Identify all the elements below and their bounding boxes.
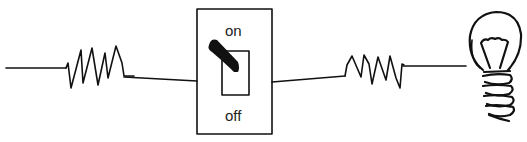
resistor-2-icon bbox=[345, 55, 404, 88]
wire-to-switch bbox=[124, 77, 197, 81]
switch-off-label: off bbox=[225, 107, 242, 124]
circuit-diagram: on off bbox=[0, 0, 527, 142]
switch-on-label: on bbox=[225, 22, 242, 39]
light-bulb-icon bbox=[470, 12, 521, 121]
wire-from-switch bbox=[272, 76, 345, 82]
toggle-switch[interactable]: on off bbox=[197, 9, 272, 134]
resistor-1-icon bbox=[66, 46, 134, 88]
switch-lever-icon bbox=[208, 40, 239, 72]
